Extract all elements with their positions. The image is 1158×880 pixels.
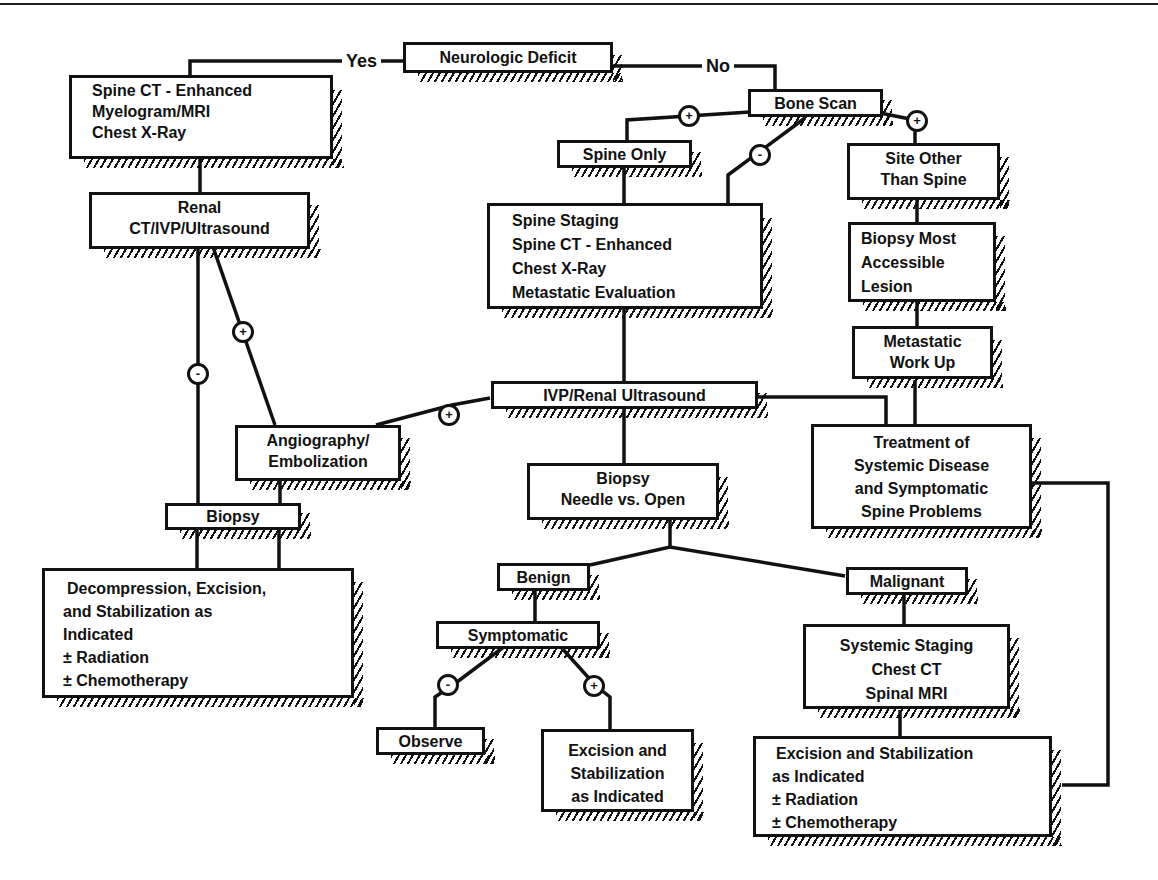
shadow-hatch <box>104 249 321 258</box>
shadow-hatch <box>180 530 311 539</box>
node-biopsy-most-accessible-lesion: Biopsy Most Accessible Lesion <box>848 222 996 302</box>
positive-sign-icon: + <box>583 675 605 697</box>
node-text: Metastatic <box>863 331 982 352</box>
shadow-hatch <box>719 477 728 529</box>
node-text: Needle vs. Open <box>538 489 708 510</box>
negative-sign-icon: - <box>437 674 459 696</box>
node-text: Neurologic Deficit <box>414 47 602 68</box>
shadow-hatch <box>1032 438 1041 538</box>
node-text: Chest X-Ray <box>512 257 752 281</box>
node-text: Biopsy <box>538 468 708 489</box>
shadow-hatch <box>883 100 892 126</box>
shadow-hatch <box>968 579 977 604</box>
yes-label: Yes <box>342 51 381 71</box>
node-text: ± Chemotherapy <box>772 811 1041 834</box>
shadow-hatch <box>502 309 773 318</box>
shadow-hatch <box>758 393 767 418</box>
node-observe: Observe <box>376 727 485 755</box>
negative-sign-icon: - <box>187 363 209 385</box>
node-text: Benign <box>508 568 579 588</box>
shadow-hatch <box>818 709 1020 718</box>
node-text: CT/IVP/Ultrasound <box>100 218 299 239</box>
positive-sign-icon: + <box>678 105 700 127</box>
node-text: Excision and Stabilization <box>772 742 1041 765</box>
node-text: Biopsy Most <box>861 227 985 251</box>
edge-ivp-angio <box>376 398 490 425</box>
shadow-hatch <box>993 340 1002 388</box>
edge-ivp-treatment <box>757 397 886 425</box>
shadow-hatch <box>84 159 344 168</box>
shadow-hatch <box>996 236 1005 311</box>
positive-sign-icon: + <box>906 110 928 132</box>
shadow-hatch <box>485 739 494 764</box>
shadow-hatch <box>694 743 703 821</box>
node-text: ± Radiation <box>772 788 1041 811</box>
shadow-hatch <box>863 302 1006 311</box>
node-text: Renal <box>100 197 299 218</box>
node-systemic-staging: Systemic Staging Chest CT Spinal MRI <box>803 624 1010 709</box>
node-angiography-embolization: Angiography/ Embolization <box>235 425 401 481</box>
shadow-hatch <box>867 379 1003 388</box>
node-text: Systemic Disease <box>822 454 1021 477</box>
shadow-hatch <box>862 200 1010 209</box>
shadow-hatch <box>310 205 319 258</box>
node-text: IVP/Renal Ultrasound <box>502 386 747 406</box>
shadow-hatch <box>692 152 701 177</box>
node-ivp-renal-ultrasound: IVP/Renal Ultrasound <box>491 381 758 409</box>
node-text: Embolization <box>246 451 390 472</box>
shadow-hatch <box>1010 638 1019 718</box>
node-text: Chest X-Ray <box>92 122 322 143</box>
shadow-hatch <box>1052 750 1061 846</box>
shadow-hatch <box>354 582 363 707</box>
shadow-hatch <box>763 218 772 318</box>
node-treatment-systemic-disease: Treatment of Systemic Disease and Sympto… <box>811 424 1032 529</box>
node-biopsy-left: Biopsy <box>165 503 301 530</box>
node-site-other-than-spine: Site Other Than Spine <box>847 143 1000 200</box>
node-text: Spinal MRI <box>814 682 999 706</box>
node-text: Treatment of <box>822 431 1021 454</box>
shadow-hatch <box>826 529 1042 538</box>
shadow-hatch <box>401 438 410 490</box>
node-text: Metastatic Evaluation <box>512 281 752 305</box>
node-text: Systemic Staging <box>814 634 999 658</box>
node-text: Lesion <box>861 275 985 299</box>
node-text: Bone Scan <box>759 94 872 114</box>
node-text: Site Other <box>858 148 989 169</box>
node-renal-ct-ivp-ultrasound: Renal CT/IVP/Ultrasound <box>89 192 310 249</box>
edge-needle-split <box>590 547 845 576</box>
node-neurologic-deficit: Neurologic Deficit <box>403 42 613 73</box>
shadow-hatch <box>1000 157 1009 209</box>
node-text: Spine Staging <box>512 209 752 233</box>
node-text: ± Radiation <box>63 646 343 669</box>
node-text: Chest CT <box>814 658 999 682</box>
node-benign: Benign <box>497 563 590 591</box>
no-label: No <box>702 56 734 76</box>
positive-sign-icon: + <box>232 321 254 343</box>
shadow-hatch <box>768 837 1062 846</box>
shadow-hatch <box>512 591 600 600</box>
node-text: Accessible <box>861 251 985 275</box>
shadow-hatch <box>590 575 599 600</box>
shadow-hatch <box>542 520 729 529</box>
shadow-hatch <box>506 409 768 418</box>
node-text: Excision and <box>552 739 683 762</box>
node-text: Than Spine <box>858 169 989 190</box>
node-text: ± Chemotherapy <box>63 669 343 692</box>
node-text: Spine Only <box>568 145 681 165</box>
node-text: and Symptomatic <box>822 477 1021 500</box>
node-spine-ct-enhanced: Spine CT - Enhanced Myelogram/MRI Chest … <box>69 75 333 159</box>
shadow-hatch <box>613 55 622 82</box>
node-spine-only: Spine Only <box>557 140 692 168</box>
negative-sign-icon: - <box>749 144 771 166</box>
node-text: Indicated <box>63 623 343 646</box>
node-text: Myelogram/MRI <box>92 101 322 122</box>
node-decompression-excision: Decompression, Excision, and Stabilizati… <box>42 568 354 698</box>
node-text: Symptomatic <box>447 626 589 646</box>
shadow-hatch <box>600 633 609 658</box>
node-text: Stabilization <box>552 762 683 785</box>
shadow-hatch <box>556 812 704 821</box>
shadow-hatch <box>418 73 623 82</box>
shadow-hatch <box>333 90 342 168</box>
node-text: as Indicated <box>772 765 1041 788</box>
node-text: and Stabilization as <box>63 600 343 623</box>
